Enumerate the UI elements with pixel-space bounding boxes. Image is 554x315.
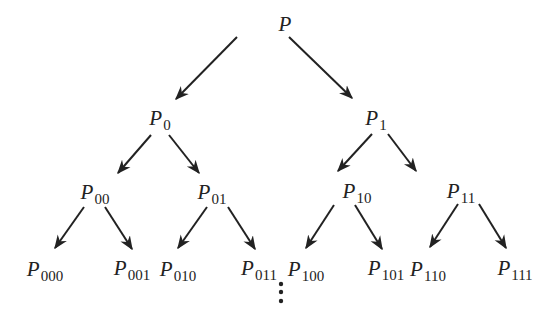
node-n0: P0 bbox=[149, 108, 170, 129]
node-n10: P10 bbox=[343, 181, 372, 202]
vertical-ellipsis-icon bbox=[279, 282, 283, 303]
node-label: P bbox=[198, 180, 211, 204]
node-n010: P010 bbox=[160, 259, 196, 280]
node-subscript: 111 bbox=[511, 267, 532, 283]
node-n001: P001 bbox=[114, 258, 150, 279]
arrow-n00-to-n001 bbox=[105, 207, 132, 249]
node-label: P bbox=[160, 257, 173, 281]
arrow-n0-to-n01 bbox=[169, 135, 199, 173]
arrow-layer bbox=[55, 37, 506, 249]
arrow-n1-to-n10 bbox=[338, 134, 372, 171]
node-label: P bbox=[497, 256, 510, 280]
node-subscript: 11 bbox=[461, 190, 475, 206]
node-label: P bbox=[241, 256, 254, 280]
arrow-n00-to-n000 bbox=[55, 207, 84, 248]
ellipsis-dot bbox=[279, 282, 283, 286]
node-n01: P01 bbox=[198, 182, 227, 203]
node-n1: P1 bbox=[365, 108, 386, 129]
node-subscript: 101 bbox=[382, 267, 405, 283]
arrow-root-to-n1 bbox=[289, 37, 352, 98]
arrow-n0-to-n00 bbox=[118, 135, 151, 173]
node-subscript: 0 bbox=[163, 117, 171, 133]
node-label: P bbox=[343, 179, 356, 203]
node-subscript: 00 bbox=[94, 191, 109, 207]
node-n00: P00 bbox=[81, 182, 110, 203]
node-subscript: 110 bbox=[424, 268, 446, 284]
node-label: P bbox=[288, 257, 301, 281]
node-subscript: 001 bbox=[128, 267, 151, 283]
node-label: P bbox=[27, 257, 40, 281]
node-label: P bbox=[279, 12, 292, 36]
node-label: P bbox=[149, 106, 162, 130]
node-subscript: 10 bbox=[356, 190, 371, 206]
node-root: P bbox=[279, 14, 292, 35]
ellipsis-dot bbox=[279, 290, 283, 294]
node-n110: P110 bbox=[410, 259, 446, 280]
node-subscript: 011 bbox=[255, 267, 277, 283]
node-n11: P11 bbox=[447, 181, 475, 202]
arrow-n10-to-n101 bbox=[355, 205, 382, 249]
arrow-n1-to-n11 bbox=[388, 134, 416, 171]
node-subscript: 100 bbox=[302, 268, 325, 284]
node-n111: P111 bbox=[497, 258, 532, 279]
node-label: P bbox=[365, 106, 378, 130]
node-label: P bbox=[447, 179, 460, 203]
arrow-n01-to-n010 bbox=[178, 207, 207, 248]
node-n011: P011 bbox=[241, 258, 277, 279]
node-subscript: 1 bbox=[379, 117, 387, 133]
arrow-n11-to-n110 bbox=[430, 204, 458, 247]
ellipsis-dot bbox=[279, 299, 283, 303]
arrow-root-to-n0 bbox=[176, 37, 237, 99]
node-label: P bbox=[368, 256, 381, 280]
node-n000: P000 bbox=[27, 259, 63, 280]
node-label: P bbox=[81, 180, 94, 204]
node-n100: P100 bbox=[288, 259, 324, 280]
node-subscript: 000 bbox=[41, 268, 64, 284]
node-label: P bbox=[114, 256, 127, 280]
node-subscript: 010 bbox=[174, 268, 197, 284]
node-label: P bbox=[410, 257, 423, 281]
arrow-n11-to-n111 bbox=[479, 204, 506, 248]
node-n101: P101 bbox=[368, 258, 404, 279]
node-subscript: 01 bbox=[211, 191, 226, 207]
arrow-n10-to-n100 bbox=[306, 205, 334, 248]
arrow-n01-to-n011 bbox=[228, 207, 255, 249]
